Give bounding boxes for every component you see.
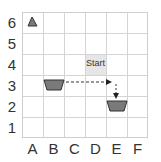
arrowhead-right-icon bbox=[106, 79, 112, 85]
pieces-overlay bbox=[0, 0, 161, 162]
arrowhead-down-icon bbox=[113, 93, 119, 99]
triangle-piece bbox=[28, 17, 37, 26]
trapezoid-piece-e2 bbox=[107, 101, 127, 111]
trapezoid-piece-b3 bbox=[44, 80, 64, 90]
